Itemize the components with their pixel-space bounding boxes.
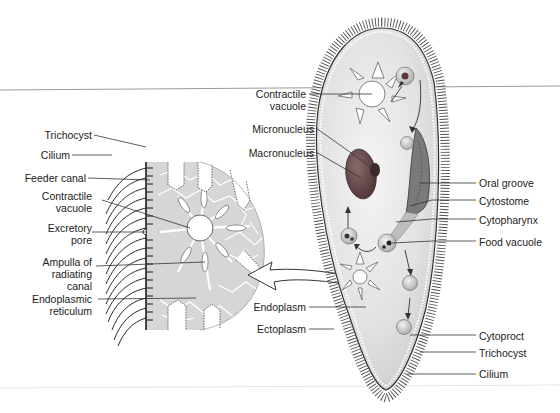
label-detail-excretory-pore: Excretory pore: [48, 222, 92, 246]
label-line: Ampulla of: [42, 256, 92, 268]
label-detail-contractile-vacuole: Contractile vacuole: [42, 190, 92, 214]
label-detail-cilium: Cilium: [41, 149, 70, 161]
label-cytoproct: Cytoproct: [479, 330, 524, 342]
label-cytopharynx: Cytopharynx: [479, 214, 538, 226]
label-line: radiating: [42, 268, 92, 280]
label-line: vacuole: [256, 100, 306, 112]
label-contractile-vacuole: Contractile vacuole: [256, 88, 306, 112]
label-endoplasm: Endoplasm: [253, 301, 306, 313]
label-line: canal: [42, 280, 92, 292]
label-line: Excretory: [48, 222, 92, 234]
detail-view: [72, 135, 264, 346]
food-vacuole-6: [397, 320, 412, 335]
label-line: Endoplasmic: [32, 293, 92, 305]
label-oral-groove: Oral groove: [479, 177, 534, 189]
label-line: pore: [48, 234, 92, 246]
label-line: Contractile: [256, 88, 306, 100]
label-micronucleus: Micronucleus: [252, 123, 314, 135]
label-detail-endoplasmic-reticulum: Endoplasmic reticulum: [32, 293, 92, 317]
label-cytostome: Cytostome: [479, 195, 529, 207]
label-line: Contractile: [42, 190, 92, 202]
bottom-rule-line: [0, 385, 560, 388]
paramecium-diagram: Trichocyst Cilium Feeder canal Contracti…: [0, 0, 560, 413]
label-ectoplasm: Ectoplasm: [257, 323, 306, 335]
label-trichocyst: Trichocyst: [479, 347, 526, 359]
label-detail-feeder-canal: Feeder canal: [25, 172, 86, 184]
detail-contractile-vacuole: [187, 215, 213, 241]
organism-view: [309, 22, 445, 398]
label-detail-trichocyst: Trichocyst: [45, 129, 92, 141]
label-food-vacuole: Food vacuole: [479, 236, 542, 248]
label-cilium: Cilium: [479, 368, 508, 380]
label-line: vacuole: [42, 202, 92, 214]
label-detail-ampulla: Ampulla of radiating canal: [42, 256, 92, 292]
food-vacuole-5: [403, 276, 418, 291]
label-macronucleus: Macronucleus: [249, 147, 314, 159]
food-vacuole-2: [401, 137, 414, 150]
label-line: reticulum: [32, 305, 92, 317]
